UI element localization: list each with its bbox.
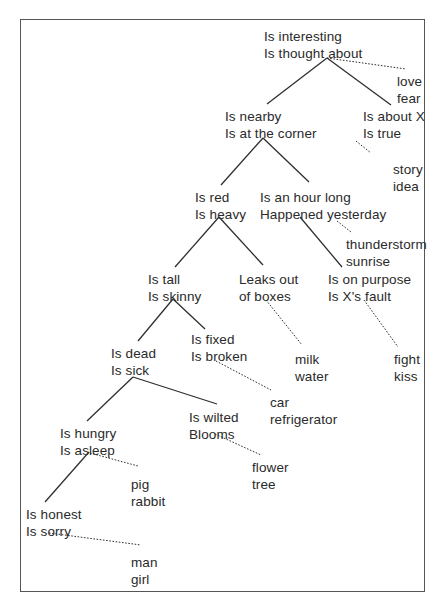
leaf-node-milk-water: milkwater xyxy=(295,352,329,385)
solid-edge-nearby-to-red xyxy=(221,138,263,185)
question-node-honest: Is honestIs sorry xyxy=(26,507,82,540)
node-label-line: Is an hour long xyxy=(260,190,386,207)
solid-edge-root-to-about-x xyxy=(327,58,391,105)
node-label-line: refrigerator xyxy=(270,412,337,429)
node-label-line: Is interesting xyxy=(264,29,362,46)
node-label-line: Is fixed xyxy=(191,332,247,349)
question-node-tall: Is tallIs skinny xyxy=(148,272,201,305)
node-label-line: Happened yesterday xyxy=(260,207,386,224)
solid-edge-hungry-to-honest xyxy=(45,452,89,502)
node-label-line: Is honest xyxy=(26,507,82,524)
node-label-line: Is true xyxy=(363,126,425,143)
node-label-line: milk xyxy=(295,352,329,369)
leaf-node-thunderstorm-sunrise: thunderstormsunrise xyxy=(346,237,427,270)
node-label-line: flower xyxy=(252,460,289,477)
dotted-edge-leaks-to-milk-water xyxy=(266,300,302,345)
node-label-line: Is wilted xyxy=(189,410,239,427)
node-label-line: pig xyxy=(131,477,165,494)
node-label-line: thunderstorm xyxy=(346,237,427,254)
node-label-line: rabbit xyxy=(131,494,165,511)
node-label-line: girl xyxy=(131,572,158,589)
node-label-line: Is sick xyxy=(111,363,156,380)
solid-edge-nearby-to-hour xyxy=(263,138,309,182)
question-node-red: Is redIs heavy xyxy=(195,190,246,223)
solid-edge-root-to-nearby xyxy=(267,58,327,104)
question-node-leaks: Leaks outof boxes xyxy=(239,272,298,305)
leaf-node-love-fear: lovefear xyxy=(397,74,422,107)
question-node-purpose: Is on purposeIs X's fault xyxy=(328,272,411,305)
node-label-line: Is nearby xyxy=(225,109,317,126)
node-label-line: Is at the corner xyxy=(225,126,317,143)
node-label-line: Is thought about xyxy=(264,46,362,63)
node-label-line: Is tall xyxy=(148,272,201,289)
leaf-node-flower-tree: flowertree xyxy=(252,460,289,493)
node-label-line: Is red xyxy=(195,190,246,207)
node-label-line: idea xyxy=(393,179,423,196)
node-label-line: love xyxy=(397,74,422,91)
question-node-nearby: Is nearbyIs at the corner xyxy=(225,109,317,142)
node-label-line: Is asleep xyxy=(60,443,116,460)
node-label-line: kiss xyxy=(394,369,420,386)
node-label-line: Is hungry xyxy=(60,426,116,443)
leaf-node-car-refrigerator: carrefrigerator xyxy=(270,395,337,428)
node-label-line: car xyxy=(270,395,337,412)
solid-edge-red-to-leaks xyxy=(219,217,263,265)
solid-edge-dead-to-hungry xyxy=(87,377,133,421)
question-node-about-x: Is about XIs true xyxy=(363,109,425,142)
question-node-hungry: Is hungryIs asleep xyxy=(60,426,116,459)
solid-edge-tall-to-dead xyxy=(138,299,173,341)
node-label-line: of boxes xyxy=(239,289,298,306)
node-label-line: Is broken xyxy=(191,349,247,366)
node-label-line: Is heavy xyxy=(195,207,246,224)
leaf-node-story-idea: storyidea xyxy=(393,162,423,195)
node-label-line: fear xyxy=(397,91,422,108)
question-node-root: Is interestingIs thought about xyxy=(264,29,362,62)
solid-edge-dead-to-wilted xyxy=(133,377,217,404)
solid-edge-red-to-tall xyxy=(175,217,219,267)
node-label-line: story xyxy=(393,162,423,179)
question-node-hour: Is an hour longHappened yesterday xyxy=(260,190,386,223)
node-label-line: Is X's fault xyxy=(328,289,411,306)
node-label-line: Is about X xyxy=(363,109,425,126)
node-label-line: fight xyxy=(394,352,420,369)
leaf-node-man-girl: mangirl xyxy=(131,555,158,588)
leaf-node-pig-rabbit: pigrabbit xyxy=(131,477,165,510)
node-label-line: Is dead xyxy=(111,346,156,363)
question-node-dead: Is deadIs sick xyxy=(111,346,156,379)
leaf-node-fight-kiss: fightkiss xyxy=(394,352,420,385)
question-node-fixed: Is fixedIs broken xyxy=(191,332,247,365)
node-label-line: tree xyxy=(252,477,289,494)
solid-edge-hour-to-purpose xyxy=(300,217,342,267)
dotted-edge-fixed-to-car-refrigerator xyxy=(216,361,271,390)
node-label-line: Is on purpose xyxy=(328,272,411,289)
node-label-line: Is sorry xyxy=(26,524,82,541)
node-label-line: sunrise xyxy=(346,254,427,271)
node-label-line: water xyxy=(295,369,329,386)
dotted-edge-about-x-to-story-idea xyxy=(356,141,371,153)
node-label-line: Is skinny xyxy=(148,289,201,306)
question-node-wilted: Is wiltedBlooms xyxy=(189,410,239,443)
node-label-line: Blooms xyxy=(189,427,239,444)
dotted-edge-purpose-to-fight-kiss xyxy=(364,300,398,347)
node-label-line: man xyxy=(131,555,158,572)
node-label-line: Leaks out xyxy=(239,272,298,289)
